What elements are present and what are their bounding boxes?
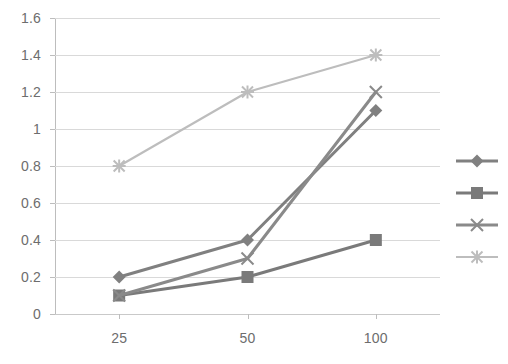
series-4 — [113, 49, 383, 173]
data-point-diamond-icon — [113, 271, 126, 284]
y-axis-tick-label: 0.2 — [0, 269, 41, 285]
y-axis-tick-label: 0.4 — [0, 232, 41, 248]
y-axis-tick-label: 1.2 — [0, 84, 41, 100]
legend-item-3[interactable] — [455, 209, 499, 241]
series-layer — [55, 18, 440, 314]
y-axis-tick-label: 0.8 — [0, 158, 41, 174]
legend-item-4[interactable] — [455, 241, 499, 273]
legend-asterisk-icon — [455, 250, 499, 264]
legend-diamond-icon — [455, 154, 499, 168]
x-axis-tick-label: 100 — [364, 330, 388, 346]
data-point-square-icon — [370, 234, 382, 246]
plot-area — [55, 18, 440, 314]
x-axis-tickmark — [119, 314, 120, 319]
y-axis-tick-label: 1 — [0, 121, 41, 137]
data-point-square-icon — [242, 271, 254, 283]
y-axis-tickmark — [50, 314, 55, 315]
legend-item-2[interactable] — [455, 177, 499, 209]
data-point-asterisk-icon — [369, 49, 382, 62]
data-point-asterisk-icon — [113, 160, 126, 173]
legend-cross-icon — [455, 218, 499, 232]
y-axis-tick-label: 1.4 — [0, 47, 41, 63]
y-axis-tick-label: 0.6 — [0, 195, 41, 211]
legend-square-icon — [455, 186, 499, 200]
data-point-cross-icon — [370, 86, 382, 98]
legend-item-1[interactable] — [455, 145, 499, 177]
line-chart: 00.20.40.60.811.21.41.6 2550100 — [0, 0, 508, 364]
x-axis-tick-label: 25 — [111, 330, 127, 346]
x-axis-tick-label: 50 — [240, 330, 256, 346]
series-line — [119, 240, 376, 296]
y-axis-tick-label: 1.6 — [0, 10, 41, 26]
y-axis-tick-label: 0 — [0, 306, 41, 322]
x-axis-tickmark — [248, 314, 249, 319]
x-axis-tickmark — [376, 314, 377, 319]
chart-legend[interactable] — [455, 145, 501, 273]
data-point-asterisk-icon — [241, 86, 254, 99]
series-3 — [113, 86, 382, 302]
